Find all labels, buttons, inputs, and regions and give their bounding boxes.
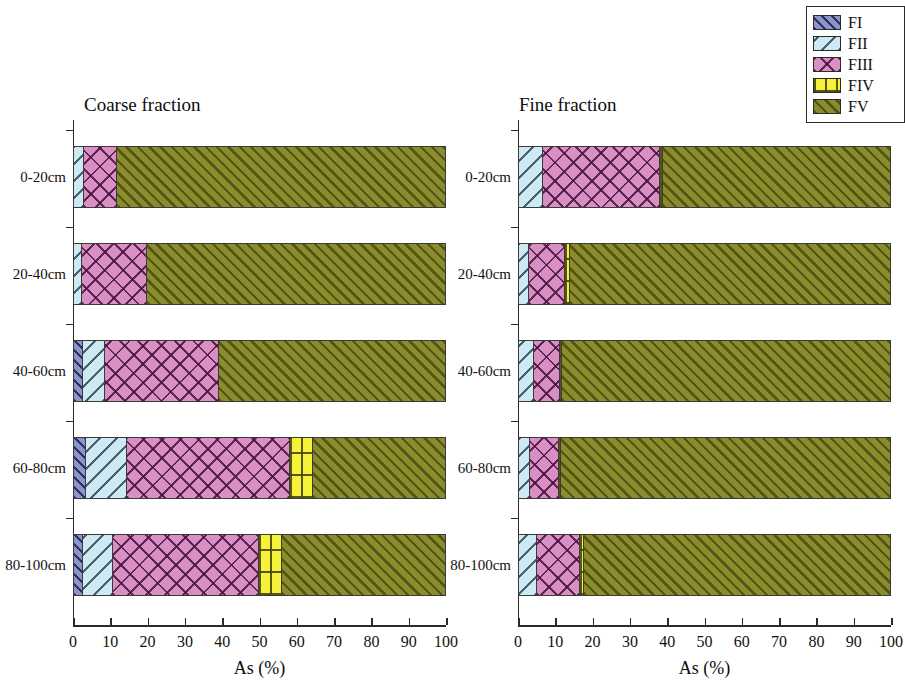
legend-label-fii: FII bbox=[848, 35, 868, 53]
legend-label-fv: FV bbox=[848, 98, 868, 116]
x-axis-tick-label: 30 bbox=[622, 633, 638, 651]
x-axis-tick bbox=[742, 618, 744, 625]
legend-item-fii: FII bbox=[813, 33, 900, 54]
bar-segment-fiv bbox=[289, 438, 312, 498]
x-axis-tick bbox=[110, 618, 112, 625]
bar-segment-fv bbox=[561, 341, 890, 401]
x-axis-tick-label: 70 bbox=[771, 633, 787, 651]
x-axis-tick bbox=[854, 618, 856, 625]
x-axis-tick-label: 60 bbox=[289, 633, 305, 651]
bar-segment-fii bbox=[519, 244, 528, 304]
bar-segment-fii bbox=[74, 244, 81, 304]
stacked-bar bbox=[518, 243, 891, 305]
y-axis-row-label: 40-60cm bbox=[0, 363, 66, 380]
bar-segment-fii bbox=[519, 147, 542, 207]
bar-segment-fv bbox=[662, 147, 890, 207]
legend-label-fiv: FIV bbox=[848, 77, 874, 95]
legend-swatch-fiii-icon bbox=[813, 57, 841, 72]
y-axis-row-label: 80-100cm bbox=[0, 557, 66, 574]
x-axis-tick-label: 90 bbox=[401, 633, 417, 651]
x-axis-tick-label: 100 bbox=[879, 633, 903, 651]
x-axis-tick-label: 10 bbox=[102, 633, 118, 651]
panel-title-coarse: Coarse fraction bbox=[84, 94, 201, 116]
panel-coarse-fraction: Coarse fraction 0102030405060708090100As… bbox=[0, 0, 460, 682]
legend-label-fiii: FIII bbox=[848, 56, 873, 74]
y-axis-row-label: 20-40cm bbox=[445, 266, 511, 283]
y-axis-row-label: 20-40cm bbox=[0, 266, 66, 283]
y-axis-tick bbox=[511, 324, 518, 325]
bar-segment-fiii bbox=[528, 244, 564, 304]
x-axis-tick-label: 40 bbox=[659, 633, 675, 651]
bar-segment-fv bbox=[569, 244, 890, 304]
stacked-bar bbox=[73, 437, 446, 499]
x-axis-tick bbox=[222, 618, 224, 625]
y-axis-row-label: 0-20cm bbox=[0, 169, 66, 186]
legend-item-fv: FV bbox=[813, 96, 900, 117]
y-axis-row-label: 60-80cm bbox=[0, 460, 66, 477]
legend-swatch-fv-icon bbox=[813, 99, 841, 114]
y-axis-tick bbox=[511, 518, 518, 519]
x-axis-tick bbox=[593, 618, 595, 625]
stacked-bar bbox=[518, 340, 891, 402]
bar-segment-fiii bbox=[83, 147, 116, 207]
bar-segment-fiv bbox=[258, 535, 282, 595]
x-axis-tick-label: 20 bbox=[140, 633, 156, 651]
bar-segment-fv bbox=[218, 341, 445, 401]
legend: FI FII FIII FIV FV bbox=[806, 6, 905, 123]
x-axis-tick-label: 80 bbox=[363, 633, 379, 651]
y-axis-row-label: 60-80cm bbox=[445, 460, 511, 477]
y-axis-tick bbox=[511, 227, 518, 228]
bar-segment-fii bbox=[519, 535, 536, 595]
bar-segment-fv bbox=[146, 244, 445, 304]
stacked-bar bbox=[73, 340, 446, 402]
x-axis-tick-label: 40 bbox=[214, 633, 230, 651]
x-axis-tick bbox=[779, 618, 781, 625]
x-axis-line bbox=[73, 625, 446, 627]
panel-title-fine: Fine fraction bbox=[519, 94, 617, 116]
bar-segment-fiii bbox=[536, 535, 579, 595]
bar-segment-fv bbox=[583, 535, 890, 595]
legend-label-fi: FI bbox=[848, 14, 862, 32]
x-axis-tick bbox=[518, 618, 520, 625]
x-axis-tick bbox=[667, 618, 669, 625]
x-axis-tick-label: 0 bbox=[514, 633, 522, 651]
x-axis-tick bbox=[705, 618, 707, 625]
x-axis-title: As (%) bbox=[234, 658, 286, 679]
legend-swatch-fiv-icon bbox=[813, 78, 841, 93]
x-axis-tick bbox=[297, 618, 299, 625]
x-axis-tick-label: 80 bbox=[808, 633, 824, 651]
x-axis-tick-label: 30 bbox=[177, 633, 193, 651]
x-axis-tick-label: 10 bbox=[547, 633, 563, 651]
x-axis-tick bbox=[371, 618, 373, 625]
y-axis-tick bbox=[66, 518, 73, 519]
legend-swatch-fii-icon bbox=[813, 36, 841, 51]
x-axis-tick bbox=[148, 618, 150, 625]
stacked-bar bbox=[518, 146, 891, 208]
bar-segment-fiii bbox=[104, 341, 219, 401]
y-axis-tick bbox=[66, 130, 73, 131]
bar-segment-fii bbox=[82, 535, 112, 595]
bar-segment-fv bbox=[312, 438, 445, 498]
bar-segment-fiii bbox=[112, 535, 258, 595]
stacked-bar bbox=[518, 534, 891, 596]
bar-segment-fiii bbox=[81, 244, 146, 304]
bar-segment-fi bbox=[74, 438, 85, 498]
x-axis-tick bbox=[630, 618, 632, 625]
x-axis-tick bbox=[334, 618, 336, 625]
stacked-bar bbox=[73, 534, 446, 596]
x-axis-tick bbox=[891, 618, 893, 625]
bar-segment-fii bbox=[85, 438, 126, 498]
x-axis-tick bbox=[816, 618, 818, 625]
y-axis-row-label: 0-20cm bbox=[445, 169, 511, 186]
bar-segment-fii bbox=[519, 341, 533, 401]
legend-item-fiii: FIII bbox=[813, 54, 900, 75]
x-axis-tick-label: 0 bbox=[69, 633, 77, 651]
bar-segment-fv bbox=[560, 438, 890, 498]
x-axis-tick-label: 90 bbox=[846, 633, 862, 651]
stacked-bar bbox=[518, 437, 891, 499]
y-axis-row-label: 80-100cm bbox=[445, 557, 511, 574]
bar-segment-fiii bbox=[529, 438, 558, 498]
x-axis-tick bbox=[185, 618, 187, 625]
bar-segment-fi bbox=[74, 535, 82, 595]
x-axis-tick bbox=[260, 618, 262, 625]
